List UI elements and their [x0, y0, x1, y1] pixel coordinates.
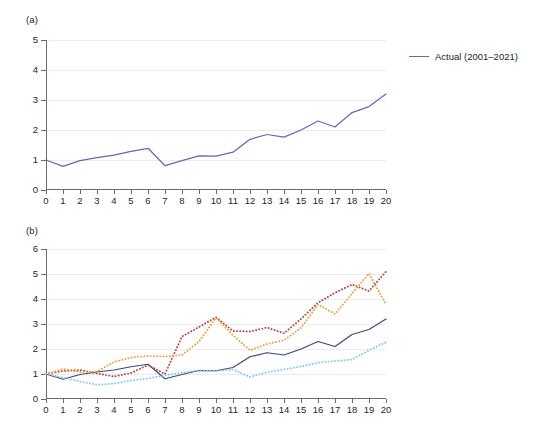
x-axis-tick-label: 18 [347, 196, 358, 206]
series-line [46, 94, 386, 166]
x-axis-tick [46, 399, 47, 403]
x-axis-tick [284, 399, 285, 403]
x-axis-tick-label: 15 [296, 405, 307, 415]
x-axis-tick [250, 399, 251, 403]
panel-a-label: (a) [26, 14, 38, 25]
x-axis-tick [318, 190, 319, 194]
x-axis-tick-label: 3 [94, 405, 99, 415]
x-axis-tick [335, 190, 336, 194]
x-axis-tick [131, 399, 132, 403]
x-axis-tick-label: 4 [111, 196, 116, 206]
x-axis-tick-label: 7 [162, 405, 167, 415]
x-axis-tick-label: 18 [347, 405, 358, 415]
figure-two-panel-line-charts: (a) 012345 01234567891011121314151617181… [0, 0, 544, 434]
y-axis-tick-label: 1 [33, 369, 38, 379]
x-axis-tick [386, 399, 387, 403]
x-axis-tick-label: 12 [245, 405, 256, 415]
x-axis-tick [233, 399, 234, 403]
y-axis-tick-label: 2 [33, 125, 38, 135]
panel-b-series-layer [46, 249, 386, 399]
x-axis-tick-label: 12 [245, 196, 256, 206]
x-axis-tick [148, 399, 149, 403]
x-axis-tick-label: 16 [313, 405, 324, 415]
x-axis-tick-label: 11 [228, 196, 238, 206]
panel-b: (b) 0123456 0123456789101112131415161718… [0, 217, 544, 434]
x-axis-tick-label: 4 [111, 405, 116, 415]
x-axis-tick [80, 190, 81, 194]
panel-a-legend: Actual (2001–2021) [409, 50, 518, 63]
y-axis-tick-label: 4 [33, 65, 38, 75]
x-axis-tick-label: 5 [128, 405, 133, 415]
x-axis-tick [199, 399, 200, 403]
y-axis-tick-label: 1 [33, 155, 38, 165]
x-axis-tick [233, 190, 234, 194]
x-axis-tick-label: 2 [77, 405, 82, 415]
x-axis-tick-label: 16 [313, 196, 324, 206]
x-axis-tick [182, 399, 183, 403]
x-axis-tick [216, 190, 217, 194]
x-axis-tick [352, 399, 353, 403]
x-axis-tick [318, 399, 319, 403]
panel-b-plot-area: 0123456 01234567891011121314151617181920 [46, 249, 386, 399]
legend-swatch-actual [409, 56, 429, 57]
series-line [46, 274, 386, 375]
panel-a-series-layer [46, 40, 386, 190]
x-axis-tick-label: 10 [211, 196, 222, 206]
x-axis-tick-label: 9 [196, 405, 201, 415]
x-axis-tick-label: 17 [330, 196, 341, 206]
x-axis-tick [199, 190, 200, 194]
x-axis-tick [250, 190, 251, 194]
x-axis-tick [148, 190, 149, 194]
x-axis-tick-label: 6 [145, 196, 150, 206]
x-axis-tick [131, 190, 132, 194]
x-axis-tick [369, 399, 370, 403]
x-axis-tick-label: 13 [262, 196, 273, 206]
x-axis-tick [114, 190, 115, 194]
x-axis-tick-label: 8 [179, 196, 184, 206]
x-axis-tick [97, 190, 98, 194]
y-axis-tick-label: 0 [33, 394, 38, 404]
x-axis-tick-label: 8 [179, 405, 184, 415]
x-axis-tick-label: 0 [43, 405, 48, 415]
x-axis-tick [216, 399, 217, 403]
legend-label: Actual (2001–2021) [435, 52, 518, 62]
x-axis-tick-label: 19 [364, 405, 375, 415]
x-axis-tick [301, 190, 302, 194]
x-axis-tick-label: 5 [128, 196, 133, 206]
x-axis-tick [182, 190, 183, 194]
x-axis-tick-label: 14 [279, 196, 290, 206]
x-axis-tick [97, 399, 98, 403]
y-axis-tick-label: 3 [33, 319, 38, 329]
y-axis-tick-label: 4 [33, 294, 38, 304]
y-axis-tick-label: 0 [33, 185, 38, 195]
x-axis-tick [301, 399, 302, 403]
x-axis-tick [369, 190, 370, 194]
x-axis-tick-label: 10 [211, 405, 222, 415]
y-axis-tick-label: 2 [33, 344, 38, 354]
x-axis-tick-label: 0 [43, 196, 48, 206]
x-axis-tick-label: 1 [60, 196, 65, 206]
x-axis-tick-label: 7 [162, 196, 167, 206]
x-axis-tick-label: 17 [330, 405, 341, 415]
x-axis-tick [352, 190, 353, 194]
x-axis-tick-label: 15 [296, 196, 307, 206]
y-axis-tick-label: 5 [33, 269, 38, 279]
x-axis-tick [46, 190, 47, 194]
x-axis-tick [284, 190, 285, 194]
panel-a: (a) 012345 01234567891011121314151617181… [0, 0, 544, 217]
x-axis-tick-label: 19 [364, 196, 375, 206]
x-axis-tick-label: 6 [145, 405, 150, 415]
panel-a-plot-area: 012345 01234567891011121314151617181920 [46, 40, 386, 190]
x-axis-tick-label: 3 [94, 196, 99, 206]
x-axis-tick [335, 399, 336, 403]
x-axis-tick-label: 2 [77, 196, 82, 206]
x-axis-tick-label: 14 [279, 405, 290, 415]
x-axis-tick-label: 20 [381, 196, 392, 206]
x-axis-tick-label: 20 [381, 405, 392, 415]
legend-item-actual: Actual (2001–2021) [409, 50, 518, 63]
y-axis-tick-label: 5 [33, 35, 38, 45]
x-axis-tick [386, 190, 387, 194]
panel-b-label: (b) [26, 225, 38, 236]
x-axis-tick [80, 399, 81, 403]
x-axis-tick [114, 399, 115, 403]
